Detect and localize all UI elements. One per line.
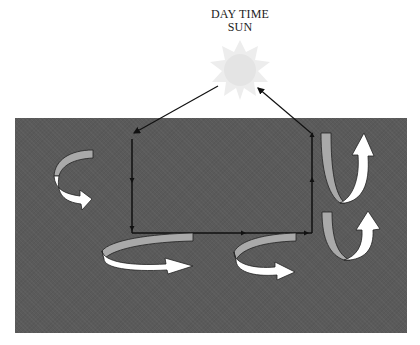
bottom-left-swirl-arrow-icon [102,233,193,274]
left-swirl-arrow-icon [54,150,93,210]
circuit-direction-markers [130,132,315,236]
upper-right-uturn-arrow-icon [321,133,374,203]
right-to-sun-arrow [258,88,311,133]
diagram-canvas [0,0,420,345]
bottom-middle-swirl-arrow-icon [234,233,296,280]
flow-circuit [132,133,312,233]
lower-right-uturn-arrow-icon [322,211,380,260]
sun-to-left-arrow [134,86,218,133]
